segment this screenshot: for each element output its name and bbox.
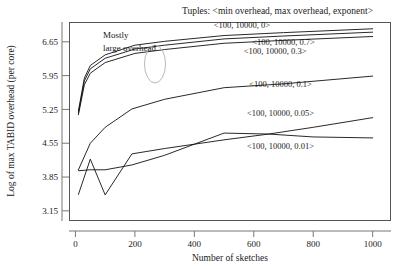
series-label: <100, 10000, 0.3>	[244, 46, 307, 56]
y-axis-title: Log of max TABID overhead (per core)	[6, 45, 17, 197]
annotation-mostly-line1: Mostly	[103, 30, 129, 40]
y-axis-ticks: 3.153.854.555.255.956.65	[42, 37, 69, 216]
series-labels: <100, 10000, 0><100, 10000, 0.7><100, 10…	[214, 20, 315, 150]
x-tick-label: 200	[128, 239, 142, 249]
series-label: <100, 10000, 0.1>	[249, 79, 312, 89]
series-label: <100, 10000, 0>	[214, 20, 271, 30]
x-axis-ticks: 02004006008001000	[73, 231, 382, 249]
y-tick-label: 3.15	[42, 206, 58, 216]
series-label: <100, 10000, 0.01>	[247, 141, 314, 151]
y-tick-label: 6.65	[42, 37, 58, 47]
series-label: <100, 10000, 0.05>	[247, 108, 314, 118]
x-tick-label: 600	[247, 239, 261, 249]
x-tick-label: 800	[306, 239, 320, 249]
series-lines	[78, 29, 372, 195]
x-tick-label: 0	[73, 239, 78, 249]
y-tick-label: 4.55	[42, 138, 58, 148]
y-tick-label: 3.85	[42, 172, 58, 182]
y-tick-label: 5.25	[42, 105, 58, 115]
x-tick-label: 400	[188, 239, 202, 249]
y-tick-label: 5.95	[42, 71, 58, 81]
x-axis-title: Number of sketches	[192, 253, 268, 263]
annotation-mostly-line2: large overhead	[103, 43, 157, 53]
chart-figure: Tuples: <min overhead, max overhead, exp…	[0, 0, 411, 269]
series-line	[78, 133, 372, 171]
line-chart: Tuples: <min overhead, max overhead, exp…	[0, 0, 411, 269]
chart-title: Tuples: <min overhead, max overhead, exp…	[182, 6, 373, 16]
series-line	[78, 76, 372, 170]
series-line	[78, 118, 372, 195]
series-line	[78, 29, 372, 111]
x-tick-label: 1000	[364, 239, 383, 249]
